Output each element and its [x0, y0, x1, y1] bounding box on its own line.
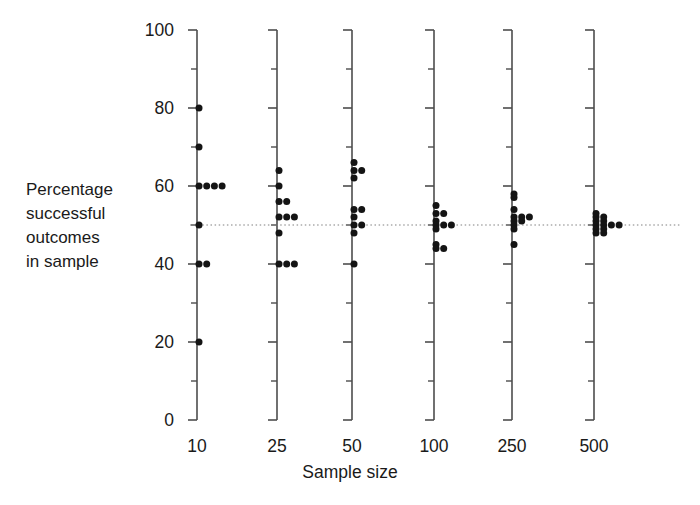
x-tick-label-500: 500	[564, 436, 624, 457]
data-point	[351, 214, 358, 221]
data-point	[351, 230, 358, 237]
data-point	[448, 222, 455, 229]
data-point	[283, 198, 290, 205]
x-tick-label-100: 100	[404, 436, 464, 457]
data-point	[276, 183, 283, 190]
data-point	[511, 194, 518, 201]
data-point	[358, 167, 365, 174]
data-point	[276, 167, 283, 174]
data-point	[358, 222, 365, 229]
data-point	[291, 214, 298, 221]
data-point	[440, 222, 447, 229]
y-tick-label-100: 100	[128, 20, 174, 41]
data-point	[196, 222, 203, 229]
data-point	[351, 159, 358, 166]
data-point	[511, 206, 518, 213]
data-point	[196, 105, 203, 112]
data-point	[351, 175, 358, 182]
data-point	[600, 230, 607, 237]
data-point	[203, 183, 210, 190]
data-point	[433, 226, 440, 233]
data-point	[283, 261, 290, 268]
x-axis-title: Sample size	[0, 462, 700, 483]
data-point	[440, 245, 447, 252]
data-point	[526, 214, 533, 221]
data-point	[203, 261, 210, 268]
data-point	[219, 183, 226, 190]
data-point	[276, 198, 283, 205]
data-point	[351, 167, 358, 174]
data-point	[211, 183, 218, 190]
data-point	[616, 222, 623, 229]
data-point	[593, 210, 600, 217]
data-point	[433, 210, 440, 217]
data-point	[196, 339, 203, 346]
data-point	[276, 214, 283, 221]
y-tick-label-60: 60	[128, 176, 174, 197]
data-point	[276, 261, 283, 268]
x-tick-label-50: 50	[322, 436, 382, 457]
x-tick-label-25: 25	[247, 436, 307, 457]
y-tick-label-40: 40	[128, 254, 174, 275]
data-point	[351, 222, 358, 229]
y-tick-label-20: 20	[128, 332, 174, 353]
data-point	[511, 226, 518, 233]
y-tick-label-80: 80	[128, 98, 174, 119]
data-point	[196, 261, 203, 268]
data-point	[351, 206, 358, 213]
data-point	[291, 261, 298, 268]
data-point	[440, 210, 447, 217]
data-point	[608, 222, 615, 229]
data-point	[351, 261, 358, 268]
data-points-layer	[196, 105, 623, 346]
data-point	[283, 214, 290, 221]
data-point	[511, 241, 518, 248]
scatter-chart-figure: Percentage successful outcomes in sample…	[0, 0, 700, 505]
data-point	[196, 183, 203, 190]
x-tick-label-250: 250	[482, 436, 542, 457]
data-point	[593, 230, 600, 237]
x-tick-label-10: 10	[167, 436, 227, 457]
y-tick-label-0: 0	[128, 410, 174, 431]
data-point	[433, 245, 440, 252]
data-point	[276, 230, 283, 237]
data-point	[358, 206, 365, 213]
data-point	[518, 218, 525, 225]
data-point	[433, 202, 440, 209]
data-point	[196, 144, 203, 151]
